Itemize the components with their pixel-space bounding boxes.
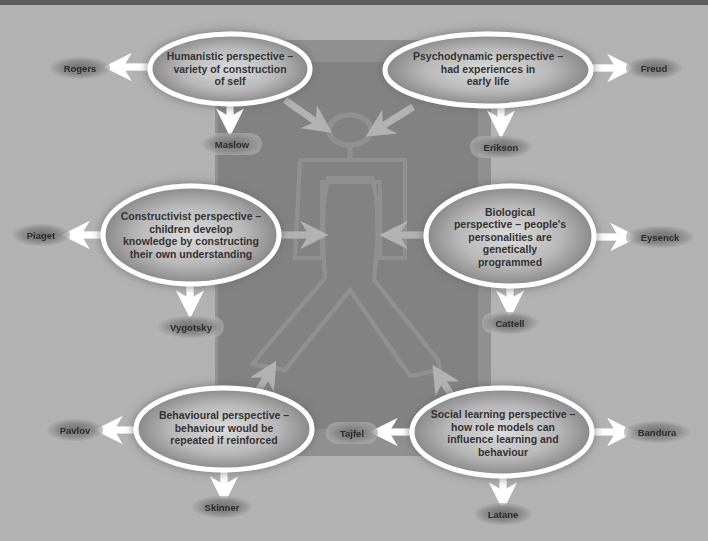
node-line: of self xyxy=(167,75,294,88)
arrow-social-to-person xyxy=(437,372,452,396)
node-line: Behavioural perspective – xyxy=(159,409,289,422)
arrow-psychodynamic-to-person xyxy=(373,107,413,132)
node-line: perspective – people's xyxy=(454,218,566,231)
diagram-canvas xyxy=(0,0,708,541)
theorist-piaget: Piaget xyxy=(12,224,70,246)
theorist-skinner: Skinner xyxy=(192,496,252,518)
node-line: Social learning perspective – xyxy=(431,408,576,421)
node-line: Humanistic perspective – xyxy=(167,50,294,63)
theorist-pavlov: Pavlov xyxy=(47,419,103,441)
node-line: early life xyxy=(413,75,563,88)
node-line: behaviour would be xyxy=(159,422,289,435)
node-biological: Biological perspective – people's person… xyxy=(440,199,580,275)
node-line: their own understanding xyxy=(121,248,262,261)
node-line: Constructivist perspective – xyxy=(121,210,262,223)
theorist-cattell: Cattell xyxy=(482,312,538,334)
node-line: genetically xyxy=(454,243,566,256)
node-line: children develop xyxy=(121,223,262,236)
node-behavioural: Behavioural perspective – behaviour woul… xyxy=(149,402,299,454)
node-line: Psychodynamic perspective – xyxy=(413,50,563,63)
node-psychodynamic: Psychodynamic perspective – had experien… xyxy=(400,40,576,98)
node-line: variety of construction xyxy=(167,63,294,76)
theorist-rogers: Rogers xyxy=(50,57,110,79)
person-outline-icon xyxy=(253,115,440,376)
theorist-tajfel: Tajfel xyxy=(326,422,378,444)
node-line: repeated if reinforced xyxy=(159,434,289,447)
node-line: had experiences in xyxy=(413,63,563,76)
theorist-maslow: Maslow xyxy=(202,133,262,155)
node-line: personalities are xyxy=(454,231,566,244)
node-line: knowledge by constructing xyxy=(121,235,262,248)
node-line: Biological xyxy=(454,206,566,219)
node-humanistic: Humanistic perspective – variety of cons… xyxy=(160,40,300,98)
node-constructivist: Constructivist perspective – children de… xyxy=(111,202,271,268)
theorist-erikson: Erikson xyxy=(470,136,532,158)
theorist-freud: Freud xyxy=(626,57,682,79)
theorist-bandura: Bandura xyxy=(624,421,690,443)
node-line: programmed xyxy=(454,256,566,269)
theorist-eysenck: Eysenck xyxy=(626,226,694,248)
theorist-latane: Latane xyxy=(474,503,532,525)
node-line: behaviour xyxy=(431,446,576,459)
node-social-learning: Social learning perspective – how role m… xyxy=(422,402,584,464)
arrow-humanistic-to-person xyxy=(285,100,325,128)
node-line: influence learning and xyxy=(431,433,576,446)
theorist-vygotsky: Vygotsky xyxy=(158,316,224,338)
node-line: how role models can xyxy=(431,421,576,434)
